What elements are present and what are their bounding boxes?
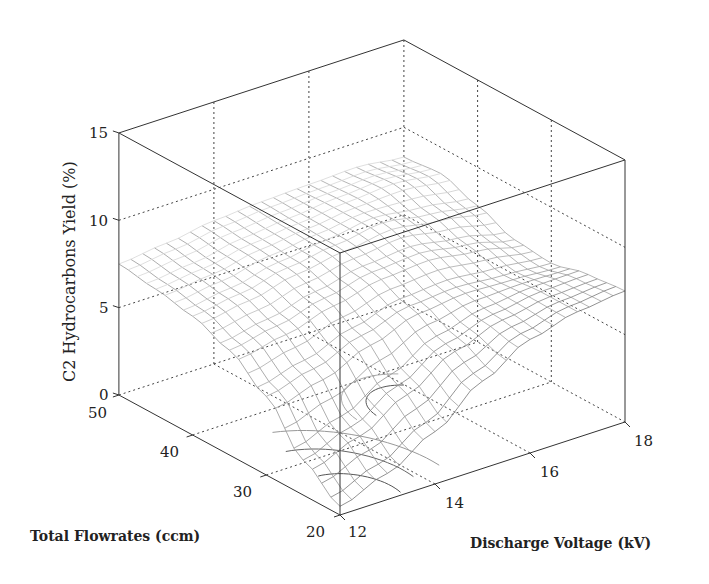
surface-plot: 0 5 10 15 50 40 30 20 12 14 16 18 C2 Hyd… [0,0,709,584]
z-axis-title: C2 Hydrocarbons Yield (%) [60,161,79,382]
voltage-tick [340,515,345,520]
grid-line [119,302,404,395]
flow-tick [260,475,266,477]
mesh-line [119,264,340,506]
flow-tick [187,435,193,437]
flow-tick-label-50: 50 [88,404,107,422]
mesh-line [238,211,459,406]
flow-tick [334,515,340,517]
mesh-line [303,275,588,461]
flow-axis-title: Total Flowrates (ccm) [30,528,200,544]
mesh-line [229,240,514,351]
voltage-tick-label-12: 12 [348,523,367,541]
mesh-line [220,233,505,344]
mesh-line [131,259,352,499]
mesh-line [155,248,376,480]
z-tick [113,131,119,133]
flow-axis [119,395,340,515]
mesh-line [285,193,506,360]
flow-tick [113,395,119,397]
mesh-line [226,216,447,422]
voltage-tick-label-14: 14 [445,494,464,512]
mesh-line [214,221,435,432]
z-tick-label-0: 0 [99,386,109,404]
mesh-line [340,291,625,506]
box-edge [119,40,404,133]
grid-line [404,302,625,422]
flow-tick-label-40: 40 [160,443,179,461]
z-tick [113,306,119,308]
mesh-line [331,287,616,498]
voltage-axis-title: Discharge Voltage (kV) [470,535,651,551]
voltage-tick [435,484,440,489]
z-tick-label-10: 10 [89,212,108,230]
z-tick [113,218,119,220]
tick-marks [113,131,630,520]
mesh-line [156,174,441,290]
grid-line [119,127,404,220]
voltage-tick-label-18: 18 [634,432,653,450]
flow-tick-label-30: 30 [233,483,252,501]
mesh-line [294,271,579,448]
grid-line [119,215,404,308]
mesh-line [250,206,471,390]
box-edge [404,40,625,160]
voltage-tick [625,422,630,427]
grid-line [404,127,625,247]
flow-tick-label-20: 20 [306,523,325,541]
z-tick-label-5: 5 [99,299,109,317]
z-tick [113,393,119,395]
contour-line [273,431,440,466]
voltage-tick-label-16: 16 [540,463,559,481]
surface-mesh [119,157,625,506]
mesh-line [147,169,432,283]
mesh-line [322,283,607,484]
voltage-tick [530,453,535,458]
z-tick-label-15: 15 [89,124,108,142]
